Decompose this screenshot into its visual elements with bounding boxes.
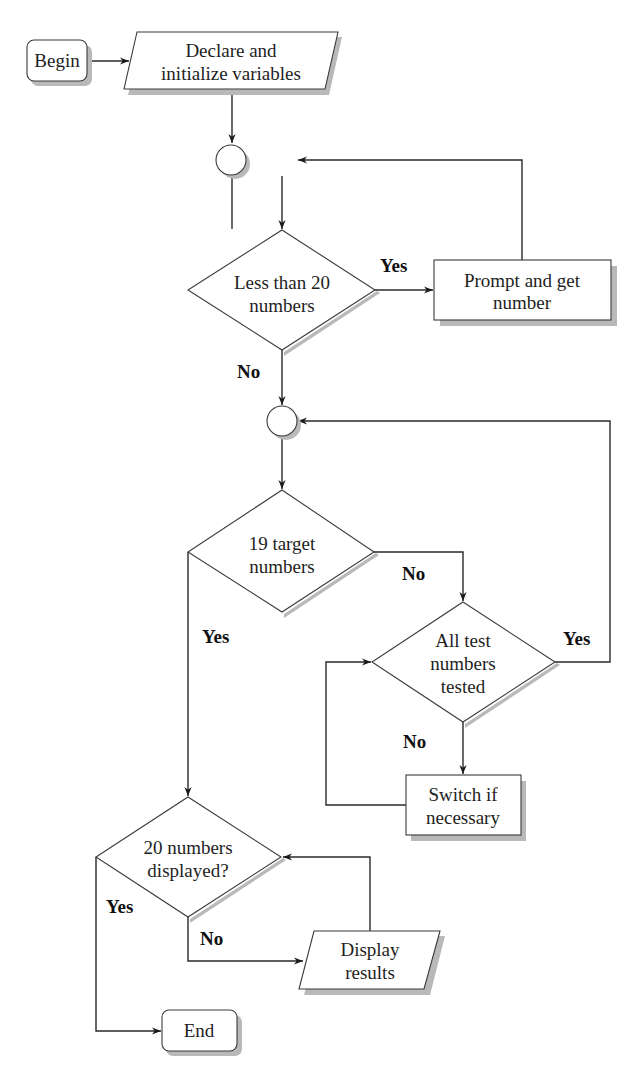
target-19-label-line2: numbers xyxy=(249,556,314,577)
displayed-20-label-line1: 20 numbers xyxy=(143,837,232,858)
all-tested-label-line1: All test xyxy=(435,630,491,651)
flowchart-canvas: Begin Declare and initialize variables L… xyxy=(0,0,637,1075)
node-prompt[interactable]: Prompt and get number xyxy=(434,260,617,326)
label-less-than-20-yes: Yes xyxy=(380,255,407,276)
node-junction2[interactable] xyxy=(267,406,301,440)
node-begin[interactable]: Begin xyxy=(27,40,92,86)
node-end[interactable]: End xyxy=(162,1010,242,1056)
end-label: End xyxy=(184,1020,215,1041)
display-results-label-line2: results xyxy=(345,962,395,983)
label-less-than-20-no: No xyxy=(237,361,260,382)
node-declare[interactable]: Declare and initialize variables xyxy=(124,32,342,95)
less-than-20-label-line2: numbers xyxy=(249,295,314,316)
edge-switch-all-tested xyxy=(326,662,406,805)
prompt-label-line2: number xyxy=(493,292,552,313)
label-all-tested-no: No xyxy=(403,731,426,752)
edge-prompt-junction1 xyxy=(298,160,522,260)
node-all-tested[interactable]: All test numbers tested xyxy=(372,602,560,728)
node-less-than-20[interactable]: Less than 20 numbers xyxy=(188,230,380,356)
edge-display-results-loop xyxy=(283,857,370,931)
prompt-label-line1: Prompt and get xyxy=(464,270,581,291)
all-tested-label-line3: tested xyxy=(441,676,486,697)
label-displayed-20-yes: Yes xyxy=(106,896,133,917)
begin-label: Begin xyxy=(34,50,80,71)
label-target-19-yes: Yes xyxy=(202,626,229,647)
node-junction1[interactable] xyxy=(216,145,250,179)
switch-label-line1: Switch if xyxy=(428,784,498,805)
node-switch[interactable]: Switch if necessary xyxy=(406,775,526,841)
less-than-20-label-line1: Less than 20 xyxy=(234,272,330,293)
label-target-19-no: No xyxy=(402,563,425,584)
declare-label-line2: initialize variables xyxy=(161,63,301,84)
node-display-results[interactable]: Display results xyxy=(299,931,445,995)
displayed-20-label-line2: displayed? xyxy=(147,860,228,881)
switch-label-line2: necessary xyxy=(426,807,500,828)
node-target-19[interactable]: 19 target numbers xyxy=(188,490,379,618)
all-tested-label-line2: numbers xyxy=(430,653,495,674)
label-all-tested-yes: Yes xyxy=(563,628,590,649)
declare-label-line1: Declare and xyxy=(185,40,277,61)
target-19-label-line1: 19 target xyxy=(249,533,316,554)
display-results-label-line1: Display xyxy=(340,939,400,960)
label-displayed-20-no: No xyxy=(200,928,223,949)
